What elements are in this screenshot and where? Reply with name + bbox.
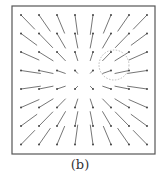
grid-point [110, 51, 112, 53]
grid-point [110, 70, 112, 72]
grid-point [128, 51, 130, 53]
grid-point [74, 88, 76, 90]
grid-point [56, 70, 58, 72]
vector-arrow [133, 15, 147, 29]
vector-arrow [21, 52, 39, 60]
vector-arrow [127, 71, 147, 74]
vector-arrow [102, 111, 111, 126]
grid-point [92, 33, 94, 35]
grid-point [128, 88, 130, 90]
vector-arrow [75, 15, 78, 35]
highlight-circle [99, 50, 129, 80]
vector-arrow [57, 111, 66, 126]
vector-arrow [39, 99, 53, 108]
vector-arrow [39, 15, 50, 31]
vector-arrow [118, 15, 129, 31]
vector-arrow [21, 99, 39, 107]
grid-point [146, 125, 148, 127]
grid-point [92, 51, 94, 53]
grid-point [146, 33, 148, 35]
vector-arrow [90, 34, 93, 49]
grid-point [146, 88, 148, 90]
vector-arrow [129, 52, 147, 60]
grid-point [20, 144, 22, 146]
vector-arrow [75, 34, 78, 49]
vector-arrow [75, 125, 78, 145]
grid-point [110, 33, 112, 35]
grid-point [92, 144, 94, 146]
grid-point [146, 14, 148, 16]
vector-arrow [115, 112, 129, 126]
grid-point [128, 14, 130, 16]
vector-arrow [57, 126, 65, 144]
grid-point [38, 70, 40, 72]
vector-arrow [90, 125, 93, 145]
grid-point [110, 14, 112, 16]
grid-point [92, 70, 94, 72]
grid-point [110, 125, 112, 127]
grid-point [110, 144, 112, 146]
grid-point [92, 14, 94, 16]
grid-point [38, 51, 40, 53]
grid-point [20, 70, 22, 72]
grid-point [56, 51, 58, 53]
vector-arrow [39, 86, 53, 89]
vector-field-diagram [0, 0, 160, 182]
vector-arrow [131, 34, 147, 46]
grid-point [74, 144, 76, 146]
grid-point [56, 14, 58, 16]
vector-arrow [39, 52, 53, 61]
vector-arrow [57, 34, 66, 49]
vector-arrow [21, 86, 41, 89]
vector-arrow [21, 130, 35, 144]
vector-arrow [21, 71, 41, 74]
grid-point [20, 51, 22, 53]
grid-point [74, 14, 76, 16]
grid-point [74, 125, 76, 127]
vector-arrow [21, 34, 37, 46]
grid-point [56, 125, 58, 127]
vector-arrow [57, 99, 66, 108]
grid-point [20, 107, 22, 109]
grid-point [56, 33, 58, 35]
grid-point [110, 107, 112, 109]
vector-arrow [127, 86, 147, 89]
vector-arrows [20, 14, 148, 146]
vector-arrow [118, 128, 129, 144]
figure-caption: (b) [0, 157, 160, 172]
vector-arrow [102, 52, 111, 61]
vector-arrow [75, 111, 78, 126]
vector-arrow [90, 99, 93, 108]
vector-arrow [21, 114, 37, 126]
grid-point [20, 88, 22, 90]
grid-point [56, 107, 58, 109]
grid-point [38, 107, 40, 109]
grid-point [56, 144, 58, 146]
grid-point [92, 107, 94, 109]
grid-point [74, 70, 76, 72]
grid-point [38, 14, 40, 16]
grid-point [128, 107, 130, 109]
vector-arrow [75, 52, 78, 61]
grid-point [38, 144, 40, 146]
vector-arrow [115, 99, 129, 108]
grid-point [110, 88, 112, 90]
grid-point [38, 33, 40, 35]
grid-point [38, 88, 40, 90]
grid-point [146, 144, 148, 146]
vector-arrow [57, 71, 66, 74]
vector-arrow [57, 15, 65, 33]
grid-point [56, 88, 58, 90]
grid-point [146, 51, 148, 53]
grid-point [128, 125, 130, 127]
vector-arrow [39, 128, 50, 144]
vector-arrow [90, 52, 93, 61]
grid-point [74, 107, 76, 109]
vector-arrow [102, 71, 111, 74]
grid-point [128, 70, 130, 72]
vector-arrow [57, 52, 66, 61]
grid-point [92, 125, 94, 127]
grid-point [74, 33, 76, 35]
grid-point [128, 144, 130, 146]
vector-arrow [115, 86, 129, 89]
